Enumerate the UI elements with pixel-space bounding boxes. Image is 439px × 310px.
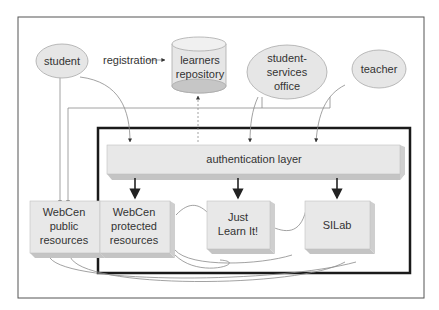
protected-line-2: protected: [111, 220, 157, 232]
public-line-2: public: [50, 220, 79, 232]
actor-student[interactable]: student: [36, 44, 88, 78]
webcen-public-resources[interactable]: WebCen public resources: [30, 201, 105, 258]
protected-line-1: WebCen: [113, 206, 156, 218]
registration-label: registration: [103, 54, 157, 66]
actor-student-services-office[interactable]: student- services office: [247, 45, 327, 99]
public-line-1: WebCen: [43, 206, 86, 218]
jli-line-1: Just: [228, 211, 248, 223]
teacher-label: teacher: [361, 63, 398, 75]
public-line-3: resources: [40, 234, 89, 246]
just-learn-it[interactable]: Just Learn It!: [207, 201, 275, 254]
repo-line-1: learners: [180, 54, 220, 66]
silab[interactable]: SILab: [305, 201, 375, 254]
sso-line-2: services: [267, 66, 308, 78]
student-label: student: [44, 55, 80, 67]
sso-line-3: office: [274, 80, 300, 92]
auth-layer-label: authentication layer: [206, 153, 302, 165]
silab-label: SILab: [323, 219, 352, 231]
sso-line-1: student-: [267, 52, 307, 64]
repo-line-2: repository: [176, 68, 225, 80]
protected-line-3: resources: [110, 234, 159, 246]
actor-teacher[interactable]: teacher: [352, 50, 406, 88]
webcen-protected-resources[interactable]: WebCen protected resources: [100, 201, 175, 258]
learners-repository[interactable]: learners repository: [172, 37, 226, 93]
jli-line-2: Learn It!: [218, 225, 258, 237]
authentication-layer[interactable]: authentication layer: [107, 145, 405, 180]
diagram-canvas: registration student learners repository…: [0, 0, 439, 310]
auth-arrows: [135, 178, 337, 198]
